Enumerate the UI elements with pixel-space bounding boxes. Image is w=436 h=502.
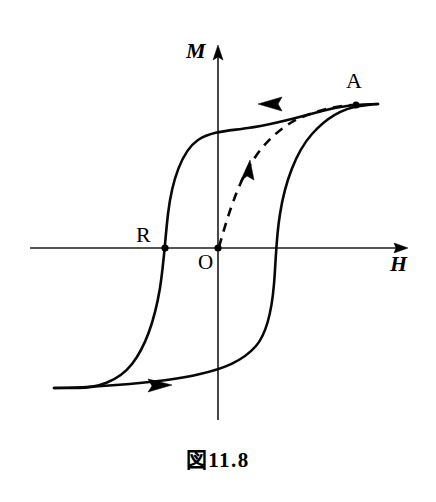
- initial-curve-direction-arrow: [240, 160, 254, 182]
- origin-point-o-dot: [214, 244, 221, 251]
- figure-caption: 図11.8: [0, 443, 436, 473]
- origin-point-o-label: O: [198, 252, 213, 273]
- descending-branch-direction-arrow: [258, 97, 282, 111]
- figure-caption-number: 11.8: [208, 448, 250, 472]
- hysteresis-plot: [0, 0, 436, 502]
- saturation-point-a-dot: [352, 101, 359, 108]
- horizontal-axis-label: H: [390, 253, 407, 275]
- vertical-axis-group: [213, 45, 223, 420]
- remanence-point-r-label: R: [136, 224, 151, 246]
- figure-caption-kanji: 図: [186, 448, 208, 472]
- vertical-axis-label: M: [186, 40, 206, 62]
- hysteresis-figure: M H A R O 図11.8: [0, 0, 436, 502]
- remanence-point-r-dot: [161, 244, 168, 251]
- saturation-point-a-label: A: [346, 70, 362, 92]
- initial-magnetization-curve: [219, 105, 352, 247]
